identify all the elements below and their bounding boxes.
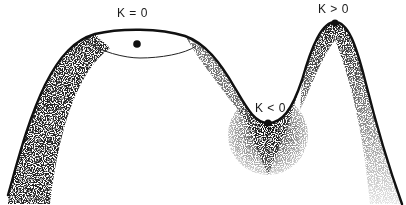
point-saddle bbox=[264, 119, 271, 126]
point-plateau bbox=[133, 40, 141, 48]
label-k-zero: K = 0 bbox=[117, 6, 148, 20]
curvature-diagram: K = 0 K < 0 K > 0 bbox=[0, 0, 406, 205]
label-k-negative: K < 0 bbox=[255, 101, 286, 115]
surface-profile bbox=[0, 0, 406, 205]
label-k-positive: K > 0 bbox=[318, 2, 349, 16]
point-peak bbox=[332, 20, 339, 27]
